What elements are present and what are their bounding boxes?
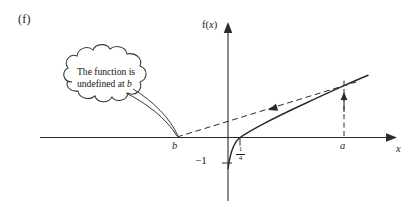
callout-line-2-italic: b [127,78,132,89]
x-tick-label-a: a [340,140,345,151]
function-graph-svg [0,0,415,208]
y-axis [224,22,233,201]
secant-line-segment [177,82,356,137]
y-tick-label-minus-one: −1 [195,154,207,166]
y-axis-arrow-up-icon [224,22,233,33]
fraction-denominator: 4 [236,155,245,163]
callout-line-1: The function is [77,66,135,77]
x-tick-label-b: b [172,140,177,151]
y-axis-label: f(x) [202,19,217,30]
secant-arrow-left-icon [267,104,278,114]
callout-tail-line-1 [126,93,177,136]
cloud-callout-bubble [64,45,178,136]
x-tick-label-quarter: 1 4 [236,146,245,162]
vertical-arrow-up-icon [341,92,348,112]
callout-tail-line-2 [133,89,178,136]
x-axis-label: x [396,143,401,154]
function-curve [228,75,368,168]
x-axis-arrow-right-icon [386,133,397,142]
callout-text: The function is undefined at b [77,66,169,89]
secant-dashed-line [177,82,356,137]
callout-line-2-prefix: undefined at [77,78,127,89]
